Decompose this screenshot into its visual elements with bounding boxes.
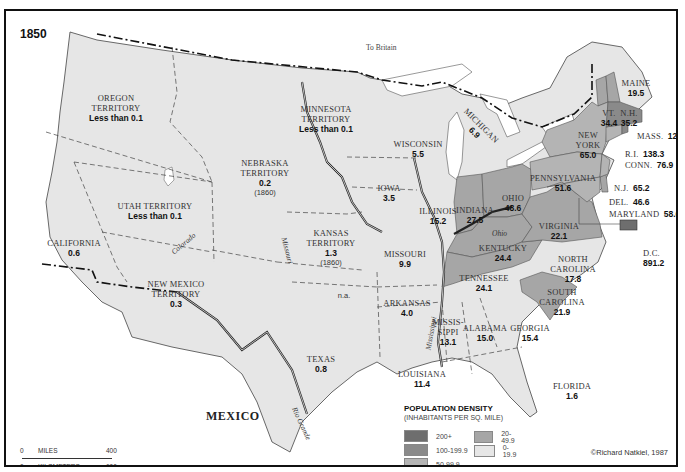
mexico-label: MEXICO bbox=[206, 409, 260, 424]
region-indiana: INDIANA 27.5 bbox=[456, 205, 494, 225]
region-new-hampshire: N.H. 35.2 bbox=[620, 108, 637, 128]
region-nebraska-territory: NEBRASKA TERRITORY 0.2 (1860) bbox=[241, 158, 290, 198]
region-missouri: MISSOURI 9.9 bbox=[384, 249, 426, 269]
legend-item-100-199: 100-199.9 bbox=[404, 444, 468, 456]
region-georgia: GEORGIA 15.4 bbox=[510, 323, 550, 343]
legend-swatch bbox=[474, 431, 493, 443]
region-arkansas: ARKANSAS 4.0 bbox=[383, 298, 430, 318]
region-pennsylvania: PENNSYLVANIA 51.6 bbox=[530, 173, 596, 193]
region-maryland: MARYLAND 58.6 bbox=[609, 207, 678, 219]
region-louisiana: LOUISIANA 11.4 bbox=[398, 369, 446, 389]
region-dc: D.C. 891.2 bbox=[643, 248, 664, 268]
to-britain-label: To Britain bbox=[366, 43, 397, 52]
region-alabama: ALABAMA 15.0 bbox=[463, 323, 507, 343]
region-new-york: NEW YORK 65.0 bbox=[576, 130, 601, 160]
legend-item-20-49: 20-49.9 bbox=[474, 430, 520, 444]
dc-swatch bbox=[620, 220, 637, 230]
region-massachusetts: MASS. 123.7 bbox=[637, 129, 678, 141]
author-credit: ©Richard Natkiel, 1987 bbox=[591, 448, 668, 457]
legend-swatch bbox=[404, 430, 428, 442]
river-label-ohio: Ohio bbox=[492, 229, 507, 238]
map-year-title: 1850 bbox=[20, 27, 47, 41]
region-new-mexico-territory: NEW MEXICO TERRITORY 0.3 bbox=[148, 279, 205, 309]
legend-swatch bbox=[474, 445, 495, 457]
region-wisconsin: WISCONSIN 5.5 bbox=[393, 139, 442, 159]
region-virginia: VIRGINIA 22.1 bbox=[539, 221, 579, 241]
scale-line bbox=[22, 458, 112, 459]
region-vermont: VT. 34.4 bbox=[601, 108, 618, 128]
legend-subtitle: (INHABITANTS PER SQ. MILE) bbox=[404, 414, 503, 421]
map-frame: 1850 To Britain MEXICO Missouri Colorado… bbox=[4, 9, 678, 467]
region-indian-territory: n.a. bbox=[338, 291, 351, 301]
region-florida: FLORIDA 1.6 bbox=[553, 381, 591, 401]
region-texas: TEXAS 0.8 bbox=[307, 354, 335, 374]
region-tennessee: TENNESSEE 24.1 bbox=[459, 273, 509, 293]
region-connecticut: CONN. 76.9 bbox=[625, 158, 673, 170]
lake-superior bbox=[382, 64, 472, 96]
legend-title: POPULATION DENSITY bbox=[404, 404, 503, 413]
region-utah-territory: UTAH TERRITORY Less than 0.1 bbox=[118, 201, 193, 221]
legend: POPULATION DENSITY (INHABITANTS PER SQ. … bbox=[404, 404, 503, 421]
region-illinois: ILLINOIS 15.2 bbox=[419, 206, 456, 226]
legend-item-50-99: 50-99.9 bbox=[404, 458, 460, 467]
region-ohio: OHIO 48.6 bbox=[502, 193, 524, 213]
region-kentucky: KENTUCKY 24.4 bbox=[479, 243, 527, 263]
legend-item-200-plus: 200+ bbox=[404, 430, 452, 442]
region-iowa: IOWA 3.5 bbox=[378, 183, 401, 203]
region-oregon-territory: OREGON TERRITORY Less than 0.1 bbox=[89, 93, 143, 123]
region-california: CALIFORNIA 0.6 bbox=[47, 238, 100, 258]
legend-swatch bbox=[404, 458, 428, 467]
region-minnesota-territory: MINNESOTA TERRITORY Less than 0.1 bbox=[299, 104, 353, 134]
legend-item-0-19: 0-19.9 bbox=[474, 444, 520, 458]
region-north-carolina: NORTH CAROLINA 17.8 bbox=[550, 254, 596, 284]
region-mississippi: MISSIS- SIPPI 13.1 bbox=[432, 317, 464, 347]
legend-swatch bbox=[404, 444, 428, 456]
region-maine: MAINE 19.5 bbox=[622, 78, 651, 98]
region-delaware: DEL. 46.6 bbox=[609, 195, 649, 207]
region-kansas-territory: KANSAS TERRITORY 1.3 (1860) bbox=[307, 228, 356, 268]
region-south-carolina: SOUTH CAROLINA 21.9 bbox=[539, 287, 585, 317]
